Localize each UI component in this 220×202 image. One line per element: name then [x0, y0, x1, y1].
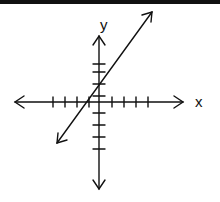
coordinate-plane: x y [0, 0, 220, 202]
y-axis-label: y [100, 16, 108, 33]
x-axis-label: x [195, 93, 203, 110]
